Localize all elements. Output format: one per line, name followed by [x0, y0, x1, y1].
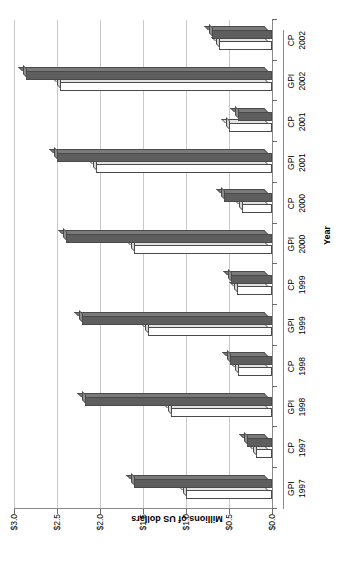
bar-face — [57, 153, 272, 162]
category-tick — [272, 182, 277, 183]
category-label-line2: 1998 — [297, 346, 308, 387]
bar-dark-gpi-2001[interactable] — [57, 153, 272, 162]
category-label-gpi-2000: GPI2000 — [286, 224, 308, 265]
category-label-line2: 1997 — [297, 468, 308, 509]
category-label-gpi-2002: GPI2002 — [286, 61, 308, 102]
bar-dark-gpi-2000[interactable] — [66, 234, 272, 243]
bar-light-cp-2001[interactable] — [229, 123, 272, 132]
category-label-line2: 1998 — [297, 387, 308, 428]
bar-face — [247, 438, 272, 447]
category-label-line1: GPI — [286, 224, 297, 265]
bar-face — [26, 71, 272, 80]
bar-dark-gpi-1997[interactable] — [134, 479, 272, 488]
bar-light-gpi-2000[interactable] — [134, 245, 272, 254]
floor-bottom-edge — [283, 30, 284, 509]
category-label-gpi-2001: GPI2001 — [286, 142, 308, 183]
bar-dark-gpi-2002[interactable] — [26, 71, 272, 80]
category-axis-title: Year — [322, 226, 332, 245]
value-axis-tick-label: $1.5 — [138, 514, 148, 531]
bar-dark-cp-1998[interactable] — [230, 356, 272, 365]
category-label-cp-2001: CP2001 — [286, 102, 308, 143]
category-label-line1: GPI — [286, 387, 297, 428]
bar-dark-cp-2001[interactable] — [238, 112, 272, 121]
value-axis-tick-label: $2.5 — [52, 514, 62, 531]
category-tick — [272, 223, 277, 224]
category-tick — [272, 508, 277, 509]
bar-dark-gpi-1999[interactable] — [82, 316, 272, 325]
category-label-line2: 2002 — [297, 20, 308, 61]
bar-face — [66, 234, 272, 243]
category-label-line1: GPI — [286, 142, 297, 183]
bar-series-container — [14, 20, 272, 509]
category-label-line2: 1999 — [297, 265, 308, 306]
chart-rotation-wrapper: Millions of US dollars $0.0$0.5$1.0$1.5$… — [0, 0, 353, 571]
category-label-line1: CP — [286, 428, 297, 469]
category-label-line1: CP — [286, 346, 297, 387]
bar-light-gpi-2001[interactable] — [96, 164, 272, 173]
bar-dark-cp-1999[interactable] — [231, 275, 272, 284]
category-tick — [272, 427, 277, 428]
category-label-line2: 2001 — [297, 142, 308, 183]
bar-face — [186, 490, 272, 499]
value-axis-tick-label: $1.0 — [181, 514, 191, 531]
category-label-line2: 1997 — [297, 428, 308, 469]
bar-face — [238, 367, 272, 376]
bar-face — [230, 356, 272, 365]
floor-top-edge — [272, 20, 273, 509]
bar-face — [85, 397, 272, 406]
plot-floor — [272, 20, 284, 509]
bar-light-gpi-2002[interactable] — [60, 82, 272, 91]
category-label-line2: 2000 — [297, 183, 308, 224]
category-label-line1: CP — [286, 183, 297, 224]
category-label-gpi-1998: GPI1998 — [286, 387, 308, 428]
value-axis-tick-label: $3.0 — [9, 514, 19, 531]
bar-face — [171, 408, 272, 417]
bar-face — [231, 275, 272, 284]
bar-light-gpi-1998[interactable] — [171, 408, 272, 417]
bar-dark-cp-2000[interactable] — [224, 193, 272, 202]
bar-face — [134, 245, 272, 254]
bar-light-cp-1997[interactable] — [256, 449, 272, 458]
bar-light-gpi-1997[interactable] — [186, 490, 272, 499]
category-tick — [272, 101, 277, 102]
bar-top-cap — [209, 24, 213, 37]
bar-dark-cp-1997[interactable] — [247, 438, 272, 447]
bar-dark-gpi-1998[interactable] — [85, 397, 272, 406]
bar-face — [256, 449, 272, 458]
bar-light-cp-2002[interactable] — [219, 41, 272, 50]
bar-light-gpi-1999[interactable] — [148, 327, 272, 336]
category-label-line1: CP — [286, 265, 297, 306]
bar-face — [212, 30, 272, 39]
category-label-line1: GPI — [286, 305, 297, 346]
bar-light-cp-2000[interactable] — [242, 204, 272, 213]
category-label-line1: GPI — [286, 61, 297, 102]
category-label-line1: CP — [286, 20, 297, 61]
plot-area: $0.0$0.5$1.0$1.5$2.0$2.5$3.0 — [14, 20, 272, 509]
bar-light-cp-1999[interactable] — [237, 286, 272, 295]
value-axis-tick-label: $0.0 — [267, 514, 277, 531]
bar-dark-cp-2002[interactable] — [212, 30, 272, 39]
category-label-line1: CP — [286, 102, 297, 143]
bar-light-cp-1998[interactable] — [238, 367, 272, 376]
bar-face — [229, 123, 272, 132]
category-label-line2: 2002 — [297, 61, 308, 102]
category-label-cp-1997: CP1997 — [286, 428, 308, 469]
value-axis-tick-label: $2.0 — [95, 514, 105, 531]
bar-face — [237, 286, 272, 295]
bar-face — [219, 41, 272, 50]
category-tick — [272, 386, 277, 387]
value-axis-tick-label: $0.5 — [224, 514, 234, 531]
category-label-line2: 1999 — [297, 305, 308, 346]
category-tick — [272, 264, 277, 265]
category-tick — [272, 467, 277, 468]
bar-chart: Millions of US dollars $0.0$0.5$1.0$1.5$… — [0, 0, 353, 571]
category-label-line2: 2000 — [297, 224, 308, 265]
bar-face — [82, 316, 272, 325]
bar-top-cap — [221, 187, 225, 200]
bar-face — [238, 112, 272, 121]
category-label-line2: 2001 — [297, 102, 308, 143]
category-tick — [272, 60, 277, 61]
bar-face — [224, 193, 272, 202]
bar-face — [148, 327, 272, 336]
category-axis-labels: GPI1997CP1997GPI1998CP1998GPI1999CP1999G… — [286, 20, 320, 509]
